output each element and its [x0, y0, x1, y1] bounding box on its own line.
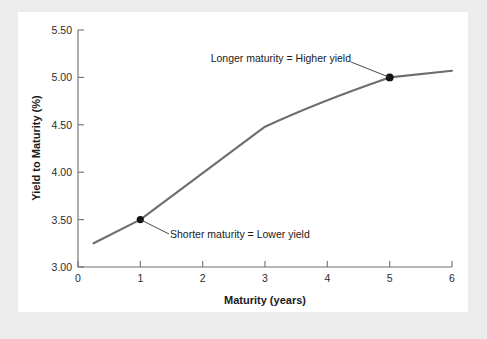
x-tick-label-6: 6 — [449, 272, 455, 284]
long-maturity-leader-line — [351, 62, 390, 77]
y-axis-ticks — [78, 30, 84, 267]
long-maturity-annotation-text: Longer maturity = Higher yield — [211, 52, 352, 64]
x-tick-label-0: 0 — [75, 272, 81, 284]
x-tick-label-3: 3 — [262, 272, 268, 284]
y-tick-label-4-00: 4.00 — [52, 166, 73, 178]
yield-curve-chart: 3.00 3.50 4.00 4.50 5.00 5.50 0 1 2 3 4 … — [18, 12, 468, 312]
short-maturity-annotation-text: Shorter maturity = Lower yield — [170, 228, 310, 240]
x-axis-title: Maturity (years) — [224, 294, 306, 306]
short-maturity-leader-line — [140, 220, 169, 234]
chart-screenshot: 3.00 3.50 4.00 4.50 5.00 5.50 0 1 2 3 4 … — [0, 0, 487, 339]
x-tick-label-2: 2 — [200, 272, 206, 284]
y-tick-label-5-00: 5.00 — [52, 71, 73, 83]
y-tick-label-5-50: 5.50 — [52, 24, 73, 36]
yield-curve-line — [94, 71, 452, 244]
x-axis-ticks — [78, 261, 452, 267]
x-tick-label-4: 4 — [324, 272, 330, 284]
y-axis-title: Yield to Maturity (%) — [30, 95, 42, 201]
x-tick-label-5: 5 — [387, 272, 393, 284]
x-tick-label-1: 1 — [137, 272, 143, 284]
y-tick-label-4-50: 4.50 — [52, 119, 73, 131]
figure-panel: 3.00 3.50 4.00 4.50 5.00 5.50 0 1 2 3 4 … — [18, 12, 468, 312]
y-tick-label-3-00: 3.00 — [52, 261, 73, 273]
y-tick-label-3-50: 3.50 — [52, 214, 73, 226]
